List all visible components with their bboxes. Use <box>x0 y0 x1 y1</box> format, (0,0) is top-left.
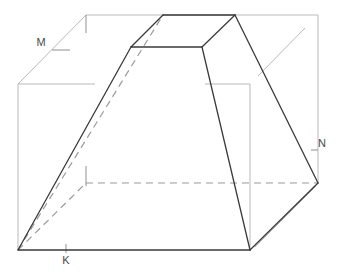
frustum-edge-lateral-front-left <box>18 47 131 250</box>
geometry-canvas: M K N <box>0 0 343 277</box>
frustum-edge-top-right <box>202 15 235 47</box>
box-edge-bottom-right-receding <box>255 186 316 247</box>
tick-marks <box>52 15 318 253</box>
hidden-edge-base-left-receding <box>18 183 86 250</box>
hidden-edge-lateral-back-left <box>18 15 163 250</box>
label-n: N <box>318 137 326 149</box>
label-k: K <box>62 254 70 266</box>
frustum-edge-lateral-front-right <box>202 47 250 250</box>
frustum-edge-lateral-back-right <box>235 15 318 183</box>
geometry-figure: M K N <box>0 0 343 277</box>
vertex-labels: M K N <box>36 36 326 266</box>
box-edge-top-right-receding <box>258 28 305 76</box>
label-m: M <box>36 36 45 48</box>
frustum-edge-top-left <box>131 15 163 47</box>
frustum-edge-base-right <box>250 183 318 250</box>
